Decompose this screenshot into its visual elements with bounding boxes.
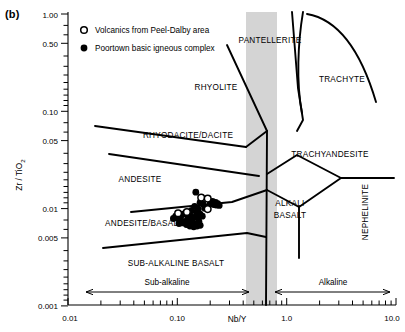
field-label-trachyandesite: TRACHYANDESITE bbox=[291, 150, 369, 159]
data-point bbox=[184, 209, 191, 216]
boundary-trachyte-left bbox=[298, 12, 303, 113]
x-tick-label: 10.0 bbox=[384, 314, 400, 323]
figure-panel: (b) bbox=[0, 0, 405, 332]
legend: Volcanics from Peel-Dalby area Poortown … bbox=[81, 26, 215, 53]
y-tick-label: 1.00 bbox=[42, 11, 58, 20]
data-point bbox=[204, 195, 211, 202]
y-axis-title: Zr / TiO2 bbox=[14, 159, 26, 191]
field-label-andesite: ANDESITE bbox=[119, 175, 162, 184]
x-axis-ticks bbox=[68, 298, 396, 305]
field-label-pantellerite: PANTELLERITE bbox=[239, 36, 302, 45]
x-tick-label: 1.0 bbox=[281, 314, 293, 323]
legend-label-peel-dalby: Volcanics from Peel-Dalby area bbox=[95, 26, 210, 35]
classification-diagram: 1.00 0.50 0.10 0.05 0.01 0.005 0.001 Zr … bbox=[0, 0, 405, 332]
x-tick-label: 0.10 bbox=[170, 314, 186, 323]
field-label-nephelinite: NEPHELINITE bbox=[361, 183, 370, 240]
data-point bbox=[176, 220, 183, 227]
field-label-alkali: ALKALI bbox=[275, 199, 304, 208]
data-point bbox=[204, 206, 211, 213]
boundary-trachyte-arc bbox=[307, 14, 376, 102]
data-point bbox=[192, 189, 199, 196]
y-tick-label: 0.10 bbox=[42, 108, 58, 117]
field-label-rhyodacite-dacite: RHYODACITE/DACITE bbox=[143, 131, 234, 140]
y-axis-ticks bbox=[61, 14, 68, 306]
y-tick-label: 0.001 bbox=[38, 302, 59, 311]
data-point bbox=[198, 194, 205, 201]
data-point bbox=[197, 222, 204, 229]
x-axis-title: Nb/Y bbox=[228, 314, 247, 324]
field-label-trachyte: TRACHYTE bbox=[319, 75, 365, 84]
y-tick-label: 0.005 bbox=[38, 234, 59, 243]
x-tick-label: 0.01 bbox=[62, 314, 78, 323]
field-label-sub-alkaline-basalt: SUB-ALKALINE BASALT bbox=[128, 259, 225, 268]
boundary-andesitebasalt-subalkaline bbox=[103, 233, 266, 248]
annotation-sub-alkaline: Sub-alkaline bbox=[144, 278, 190, 287]
y-axis-tick-labels: 1.00 0.50 0.10 0.05 0.01 0.005 0.001 bbox=[38, 11, 59, 312]
legend-marker-open-circle bbox=[81, 27, 88, 34]
alkaline-divider-band bbox=[246, 12, 277, 305]
y-tick-label: 0.05 bbox=[42, 137, 58, 146]
field-label-rhyolite: RHYOLITE bbox=[195, 83, 238, 92]
y-tick-label: 0.50 bbox=[42, 40, 58, 49]
legend-marker-filled-circle bbox=[81, 45, 88, 52]
data-point bbox=[175, 210, 182, 217]
y-axis-title-text: Zr / TiO bbox=[14, 162, 24, 190]
annotation-alkaline: Alkaline bbox=[319, 278, 348, 287]
y-tick-label: 0.01 bbox=[42, 205, 58, 214]
alkalinity-annotations bbox=[86, 289, 390, 294]
data-point bbox=[195, 214, 202, 221]
field-label-basalt: BASALT bbox=[274, 211, 306, 220]
svg-text:Zr / TiO2: Zr / TiO2 bbox=[14, 159, 26, 191]
legend-label-poortown: Poortown basic igneous complex bbox=[95, 44, 215, 53]
boundary-rhyodacite-andesite bbox=[109, 154, 259, 176]
data-point bbox=[216, 202, 223, 209]
boundary-central-vertical bbox=[266, 131, 267, 305]
y-axis-title-subscript: 2 bbox=[19, 159, 26, 163]
